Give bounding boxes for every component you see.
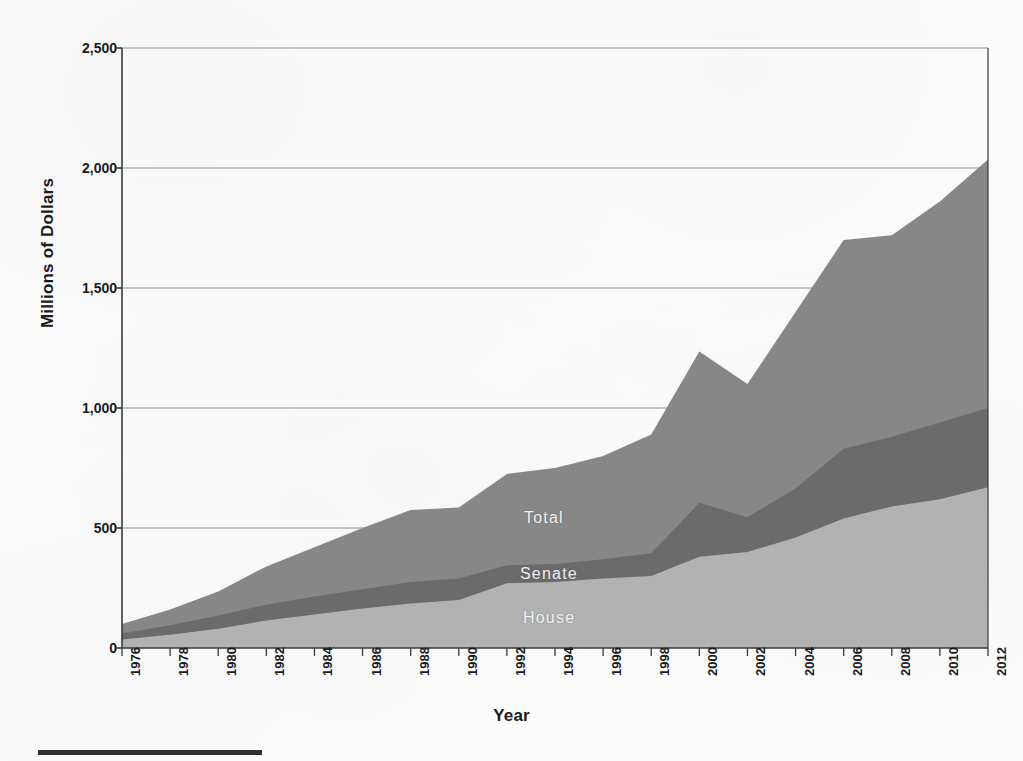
- y-tick-label: 500: [94, 520, 117, 536]
- y-tick-label: 1,000: [82, 400, 117, 416]
- y-tick-label: 1,500: [82, 280, 117, 296]
- x-tick-label: 1980: [224, 647, 239, 707]
- x-tick-label: 1996: [609, 647, 624, 707]
- series-label-house: House: [523, 609, 575, 627]
- plot-area: [0, 0, 1023, 761]
- series-label-total: Total: [524, 509, 564, 527]
- x-tick-label: 1990: [465, 647, 480, 707]
- x-tick-label: 2004: [802, 647, 817, 707]
- x-tick-label: 1988: [417, 647, 432, 707]
- x-axis-title: Year: [0, 706, 1023, 726]
- y-tick-label: 2,500: [82, 40, 117, 56]
- x-tick-label: 2012: [994, 647, 1009, 707]
- x-tick-label: 1976: [128, 647, 143, 707]
- x-tick-label: 2008: [898, 647, 913, 707]
- area-chart-figure: Millions of Dollars Year 05001,0001,5002…: [0, 0, 1023, 761]
- x-tick-label: 2002: [753, 647, 768, 707]
- x-tick-label: 2000: [705, 647, 720, 707]
- y-axis-title: Millions of Dollars: [38, 143, 58, 363]
- x-tick-label: 1978: [176, 647, 191, 707]
- x-tick-label: 1986: [369, 647, 384, 707]
- x-tick-label: 1982: [272, 647, 287, 707]
- x-tick-label: 1984: [320, 647, 335, 707]
- x-tick-label: 2006: [850, 647, 865, 707]
- series-label-senate: Senate: [520, 565, 578, 583]
- x-tick-label: 1998: [657, 647, 672, 707]
- x-tick-label: 2010: [946, 647, 961, 707]
- footnote-rule: [38, 750, 262, 755]
- y-tick-label: 0: [109, 640, 117, 656]
- x-tick-label: 1992: [513, 647, 528, 707]
- y-tick-label: 2,000: [82, 160, 117, 176]
- x-tick-label: 1994: [561, 647, 576, 707]
